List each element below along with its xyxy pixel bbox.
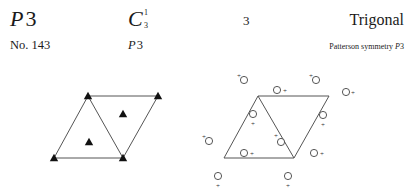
plus-sign-icon: + [237,72,241,80]
general-position-circle-icon [284,172,291,179]
general-position-circle-icon [205,137,212,144]
plus-sign-icon: + [216,182,220,190]
general-position-circle-icon [214,172,221,179]
general-position-circle-icon [319,111,326,118]
plus-sign-icon: + [351,89,355,97]
plus-sign-icon: + [202,133,206,141]
plus-sign-icon: + [274,132,278,140]
general-position-circle-icon [312,76,319,83]
general-position-circle-icon [240,76,247,83]
general-position-circle-icon [240,149,247,156]
general-position-circle-icon [249,110,256,117]
general-position-circle-icon [273,86,280,93]
plus-sign-icon: + [286,182,290,190]
general-position-diagram: ++++++++++++ [0,0,414,194]
plus-sign-icon: + [309,72,313,80]
cell-diagonal [258,96,294,158]
plus-sign-icon: + [251,120,255,128]
general-position-circle-icon [342,88,349,95]
general-position-circle-icon [310,149,317,156]
plus-sign-icon: + [250,150,254,158]
plus-sign-icon: + [321,121,325,129]
plus-sign-icon: + [283,87,287,95]
plus-sign-icon: + [320,150,324,158]
general-position-circle-icon [277,138,284,145]
